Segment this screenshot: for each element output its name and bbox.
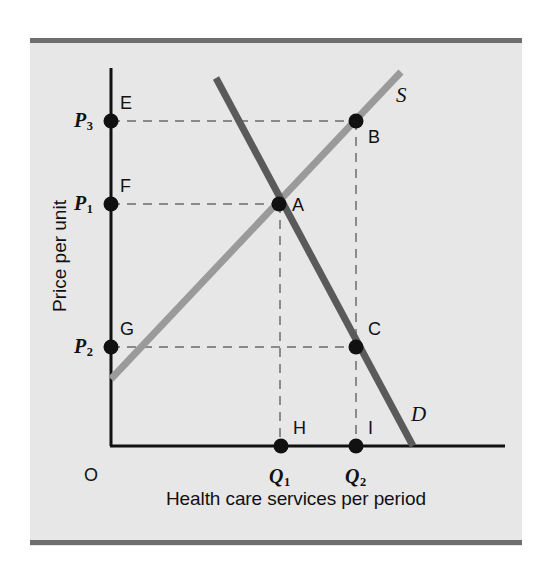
y-axis-title: Price per unit [50, 200, 69, 312]
curve-label-S: S [396, 85, 407, 106]
ytick-label-P2: P2 [74, 336, 93, 358]
xtick-label-Q1: Q1 [269, 466, 290, 488]
point-label-A: A [292, 196, 304, 214]
point-marker-G [104, 340, 119, 355]
xtick-label-Q2: Q2 [345, 466, 366, 488]
point-label-B: B [368, 128, 380, 146]
origin-label: O [84, 466, 98, 484]
point-label-G: G [120, 320, 134, 338]
curve-label-D: D [411, 404, 426, 425]
supply-demand-figure: P3 P1 P2 Q1 Q2 O E F G A B C H I S D Pri… [0, 0, 550, 567]
point-marker-C [349, 340, 364, 355]
point-label-E: E [120, 94, 132, 112]
demand-curve [216, 78, 413, 446]
point-label-I: I [368, 419, 373, 437]
point-marker-I [349, 439, 364, 454]
point-label-H: H [293, 419, 306, 437]
point-marker-B [349, 114, 364, 129]
point-label-C: C [368, 320, 381, 338]
ytick-label-P3: P3 [74, 110, 93, 132]
point-marker-F [104, 197, 119, 212]
point-marker-E [104, 114, 119, 129]
ytick-label-P1: P1 [74, 193, 93, 215]
point-marker-H [274, 439, 289, 454]
x-axis-title: Health care services per period [166, 489, 426, 508]
point-marker-A [272, 197, 287, 212]
point-label-F: F [120, 177, 131, 195]
